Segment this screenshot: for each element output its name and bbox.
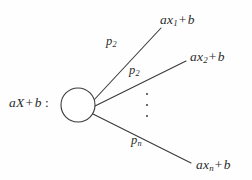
branch-outcome-label-2: ax2+b bbox=[190, 50, 225, 65]
ellipsis-dot bbox=[146, 93, 148, 95]
branch-outcome-label-3: axn+b bbox=[196, 158, 231, 173]
branch-probability-label-3: pn bbox=[131, 134, 142, 149]
branch-line-3 bbox=[93, 114, 191, 163]
source-node-circle bbox=[61, 88, 95, 122]
diagram-vector-layer bbox=[0, 0, 252, 180]
branch-outcome-label-1: ax1+b bbox=[160, 13, 195, 28]
diagram-canvas: aX+b: p2 p2 pn ax1+b ax2+b axn+b bbox=[0, 0, 252, 180]
source-variable-label: aX+b: bbox=[9, 96, 49, 110]
ellipsis-dot bbox=[146, 115, 148, 117]
vertical-ellipsis-icon bbox=[143, 93, 151, 117]
branch-probability-label-1: p2 bbox=[106, 35, 117, 50]
branch-probability-label-2: p2 bbox=[129, 64, 140, 79]
ellipsis-dot bbox=[146, 104, 148, 106]
